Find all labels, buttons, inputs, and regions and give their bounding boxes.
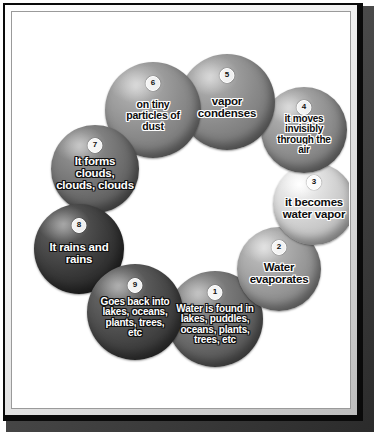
step-number-badge: 5 <box>220 68 235 83</box>
diagram-canvas: 1Water is found in lakes, puddles, ocean… <box>13 13 349 407</box>
cycle-node-label: it moves invisibly through the air <box>274 114 333 155</box>
cycle-node-3[interactable]: 3it becomes water vapor <box>273 163 349 245</box>
cycle-node-label: It rains and rains <box>47 242 112 265</box>
step-number-badge: 2 <box>272 240 287 255</box>
cycle-node-label: Water evaporates <box>247 262 312 285</box>
cycle-node-label: Goes back into lakes, oceans, plants, tr… <box>98 297 173 338</box>
step-number-badge: 9 <box>128 278 143 293</box>
cycle-node-label: vapor condenses <box>195 96 259 119</box>
water-cycle-poster: 1Water is found in lakes, puddles, ocean… <box>0 0 380 438</box>
step-number-badge: 1 <box>208 285 223 300</box>
step-number-badge: 3 <box>307 175 322 190</box>
step-number-badge: 7 <box>88 138 103 153</box>
step-number-badge: 8 <box>72 218 87 233</box>
cycle-node-label: Water is found in lakes, puddles, oceans… <box>173 304 256 345</box>
cycle-node-label: on tiny particles of dust <box>123 99 183 131</box>
cycle-node-7[interactable]: 7It forms clouds, clouds, clouds <box>51 125 139 213</box>
cycle-node-9[interactable]: 9Goes back into lakes, oceans, plants, t… <box>87 264 183 360</box>
step-number-badge: 6 <box>146 76 161 91</box>
cycle-node-label: It forms clouds, clouds, clouds <box>51 156 139 191</box>
cycle-node-label: it becomes water vapor <box>280 197 348 220</box>
